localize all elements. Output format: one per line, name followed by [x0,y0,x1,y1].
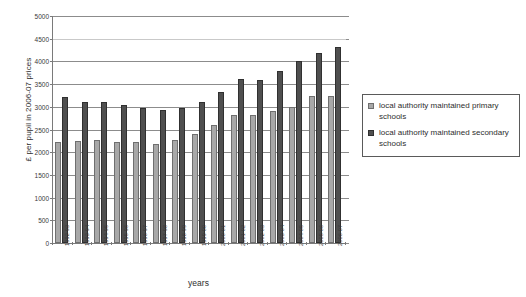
x-tick-mark [306,242,307,245]
x-tick-mark [345,242,346,245]
y-tick-label: 3500 [35,81,49,88]
right-tick-mark [346,152,349,153]
bar-group [229,16,249,243]
bar-chart-figure: £ per pupil in 2006-07 prices 0500100015… [0,0,526,297]
x-tick-label: 2005-06 [318,216,324,246]
bar-group [53,16,73,243]
y-tick-label: 5000 [35,13,49,20]
x-tick-mark [228,242,229,245]
legend-item: local authority maintained secondary sch… [368,128,514,149]
x-tick-mark [169,242,170,245]
bar-primary-schools [289,107,295,243]
legend-item: local authority maintained primary schoo… [368,101,514,122]
right-tick-mark [346,84,349,85]
x-tick-label: 1992-93 [64,216,70,246]
right-tick-mark [346,39,349,40]
x-tick-label: 1999-00 [201,216,207,246]
x-tick-mark [325,242,326,245]
bar-primary-schools [114,142,120,243]
x-tick-label: 1995-96 [123,216,129,246]
y-tick-label: 3000 [35,103,49,110]
legend-label: local authority maintained secondary sch… [379,128,514,149]
x-tick-label: 1993-94 [84,216,90,246]
x-axis-title: years [52,278,345,288]
right-tick-mark [346,175,349,176]
bar-group [326,16,346,243]
x-tick-mark [189,242,190,245]
bar-primary-schools [153,144,159,243]
bar-primary-schools [94,140,100,244]
x-tick-label: 2001-02 [240,216,246,246]
y-tick-label: 2000 [35,149,49,156]
bar-group [73,16,93,243]
bar-group [190,16,210,243]
right-tick-mark [346,198,349,199]
bar-group [268,16,288,243]
bar-primary-schools [328,96,334,243]
x-tick-label: 1996-97 [142,216,148,246]
x-tick-label: 1997-98 [162,216,168,246]
bar-primary-schools [270,111,276,243]
x-axis-tick-labels: 1992-931993-941994-951995-961996-971997-… [52,245,345,277]
right-tick-mark [346,107,349,108]
right-tick-mark [346,220,349,221]
x-tick-label: 2003-04 [279,216,285,246]
y-tick-label: 0 [45,240,49,247]
y-tick-label: 2500 [35,126,49,133]
bar-group [170,16,190,243]
plot-area: 0500100015002000250030003500400045005000 [52,16,346,244]
y-tick-label: 1500 [35,171,49,178]
legend-swatch-secondary [368,130,374,136]
bar-primary-schools [231,115,237,243]
bar-group [151,16,171,243]
bar-secondary-schools [316,53,322,243]
bar-primary-schools [55,142,61,243]
x-tick-label: 2000-01 [220,216,226,246]
x-tick-mark [286,242,287,245]
x-tick-mark [150,242,151,245]
bar-primary-schools [309,96,315,243]
bar-primary-schools [75,141,81,243]
x-tick-label: 2004-05 [298,216,304,246]
bar-group [209,16,229,243]
legend-label: local authority maintained primary schoo… [379,101,514,122]
chart-legend: local authority maintained primary schoo… [362,94,520,157]
bar-primary-schools [133,142,139,243]
y-tick-label: 4000 [35,58,49,65]
y-axis-title: £ per pupil in 2006-07 prices [24,10,33,210]
x-tick-mark [111,242,112,245]
bars-layer [53,16,346,243]
x-tick-mark [72,242,73,245]
bar-primary-schools [211,125,217,243]
x-tick-mark [247,242,248,245]
right-tick-mark [346,61,349,62]
x-tick-label: 2006-07 [337,216,343,246]
bar-primary-schools [192,134,198,243]
x-tick-mark [52,242,53,245]
right-tick-mark [346,243,349,244]
bar-primary-schools [250,115,256,243]
x-tick-mark [91,242,92,245]
x-tick-mark [267,242,268,245]
bar-group [248,16,268,243]
right-tick-mark [346,16,349,17]
legend-swatch-primary [368,103,374,109]
bar-group [112,16,132,243]
bar-group [131,16,151,243]
bar-primary-schools [172,140,178,243]
bar-group [307,16,327,243]
x-tick-mark [208,242,209,245]
bar-secondary-schools [335,47,341,243]
y-tick-label: 1000 [35,194,49,201]
x-tick-label: 2002-03 [259,216,265,246]
bar-group [287,16,307,243]
y-tick-label: 4500 [35,35,49,42]
x-tick-label: 1994-95 [103,216,109,246]
right-tick-mark [346,130,349,131]
x-tick-label: 1998-99 [181,216,187,246]
x-tick-mark [130,242,131,245]
bar-group [92,16,112,243]
y-tick-label: 500 [38,217,49,224]
